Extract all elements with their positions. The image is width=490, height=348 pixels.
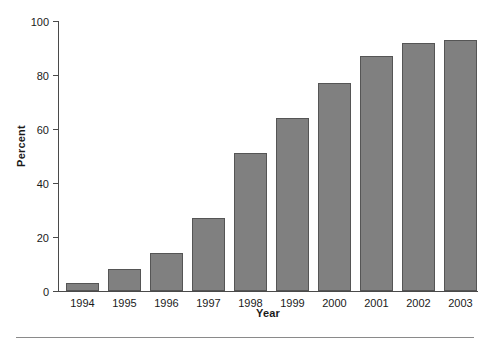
y-axis-tick-label: 40 <box>37 178 49 190</box>
y-axis-tick: 20 <box>53 237 58 238</box>
x-axis-line <box>58 291 478 292</box>
bar-1994 <box>66 283 99 291</box>
y-axis-tick: 100 <box>53 21 58 22</box>
x-axis-title: Year <box>58 307 478 319</box>
bar-2001 <box>360 56 393 291</box>
bottom-divider <box>16 337 474 338</box>
y-axis-tick: 80 <box>53 75 58 76</box>
y-axis-tick: 0 <box>53 291 58 292</box>
y-axis-tick-label: 0 <box>43 286 49 298</box>
bar-chart-figure: Percent 020406080100 1994199519961997199… <box>0 0 490 348</box>
bar-2002 <box>402 43 435 291</box>
y-axis-title-text: Percent <box>15 125 27 167</box>
y-axis-tick: 60 <box>53 129 58 130</box>
y-axis-tick-label: 60 <box>37 124 49 136</box>
y-axis-tick: 40 <box>53 183 58 184</box>
y-axis-tick-label: 20 <box>37 232 49 244</box>
y-axis-title: Percent <box>10 0 32 291</box>
bar-1998 <box>234 153 267 291</box>
bar-1999 <box>276 118 309 291</box>
bar-2000 <box>318 83 351 291</box>
y-axis-tick-label: 100 <box>31 16 49 28</box>
bar-2003 <box>444 40 477 291</box>
plot-area: 020406080100 199419951996199719981999200… <box>58 21 478 291</box>
y-axis-line <box>58 21 59 292</box>
bar-1997 <box>192 218 225 291</box>
y-axis-tick-label: 80 <box>37 70 49 82</box>
bar-1996 <box>150 253 183 291</box>
bar-1995 <box>108 269 141 291</box>
